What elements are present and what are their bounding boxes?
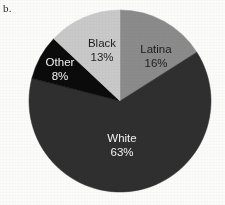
slice-label-white: White — [107, 132, 136, 144]
figure-panel: b. Latina16%White63%Other8%Black13% — [0, 0, 225, 205]
slice-label-black: Black — [88, 37, 116, 49]
pie-slices-group — [29, 10, 211, 192]
slice-value-latina: 16% — [144, 57, 167, 69]
slice-value-white: 63% — [110, 146, 133, 158]
slice-value-other: 8% — [52, 70, 69, 82]
slice-label-other: Other — [46, 56, 75, 68]
slice-label-latina: Latina — [140, 43, 172, 55]
slice-value-black: 13% — [90, 51, 113, 63]
pie-chart: Latina16%White63%Other8%Black13% — [0, 0, 225, 205]
